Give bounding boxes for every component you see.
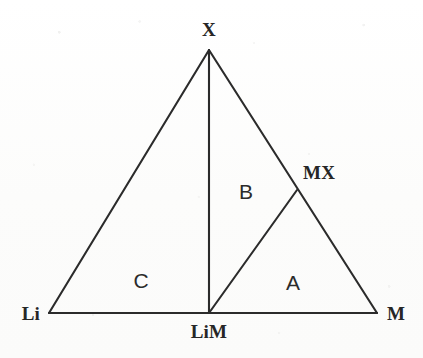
region-label-a: A [286,272,300,293]
ternary-triangle-svg [0,0,423,358]
tie-line-lim-to-mx [209,190,297,313]
vertex-label-mx: MX [303,163,335,182]
region-label-c: C [133,270,148,291]
vertex-label-li: Li [22,304,40,323]
region-label-b: B [239,181,253,202]
vertex-label-m: M [387,304,405,323]
vertex-label-lim: LiM [191,322,228,341]
ternary-phase-diagram: X Li M LiM MX A B C [0,0,423,358]
edge-li-to-x [49,50,209,313]
vertex-label-x: X [202,20,216,39]
